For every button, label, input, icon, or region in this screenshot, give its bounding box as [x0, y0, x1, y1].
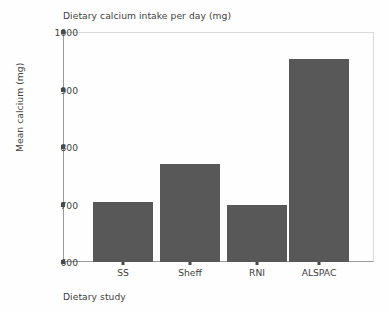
x-tick-mark-rni — [256, 262, 259, 265]
x-axis-title: Dietary study — [63, 291, 126, 302]
x-tick-label-sheff: Sheff — [178, 267, 202, 278]
x-tick-label-ss: SS — [117, 267, 129, 278]
x-tick-mark-sheff — [189, 262, 192, 265]
y-tick-mark-800 — [61, 145, 65, 149]
x-tick-label-alspac: ALSPAC — [302, 267, 337, 278]
y-axis: 1000 900 800 700 600 — [0, 0, 389, 312]
bar-chart-figure: Dietary calcium intake per day (mg) 1000… — [0, 0, 389, 312]
y-axis-title: Mean calcium (mg) — [14, 63, 25, 152]
y-tick-mark-900 — [61, 88, 65, 92]
y-tick-mark-600 — [61, 260, 65, 264]
y-tick-mark-1000 — [61, 30, 65, 34]
y-tick-mark-700 — [61, 203, 65, 207]
x-tick-label-rni: RNI — [249, 267, 265, 278]
y-tick-label-1000: 1000 — [55, 27, 78, 38]
x-tick-mark-alspac — [318, 262, 321, 265]
x-tick-mark-ss — [122, 262, 125, 265]
